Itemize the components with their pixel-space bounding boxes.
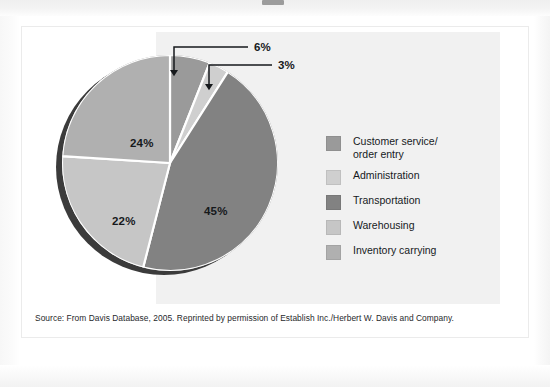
slice-label-inventory-carrying: 24% — [130, 137, 154, 149]
legend-item-inventory-carrying: Inventory carrying — [326, 244, 494, 260]
pie-chart: 24% 22% 45% — [56, 53, 284, 285]
legend-item-customer-service: Customer service/ order entry — [326, 135, 494, 160]
legend-item-warehousing: Warehousing — [326, 219, 494, 235]
legend-item-label: Warehousing — [353, 219, 414, 232]
source-note: Source: From Davis Database, 2005. Repri… — [35, 313, 515, 323]
legend-swatch-icon — [326, 195, 341, 210]
pie-disc — [62, 55, 278, 271]
legend-item-label: Customer service/ order entry — [353, 135, 438, 160]
cropped-title-sliver — [262, 0, 284, 5]
legend-item-label: Transportation — [353, 194, 420, 207]
chart-legend: Customer service/ order entry Administra… — [326, 135, 494, 260]
legend-item-label: Inventory carrying — [353, 244, 436, 257]
callout-label-6: 6% — [254, 41, 271, 53]
legend-swatch-icon — [326, 170, 341, 185]
legend-item-administration: Administration — [326, 169, 494, 185]
figure-card: 24% 22% 45% 6% 3% Customer service/ orde… — [21, 26, 529, 338]
page-edge-left — [0, 16, 20, 387]
legend-swatch-icon — [326, 245, 341, 260]
slice-label-warehousing: 22% — [112, 215, 136, 227]
legend-swatch-icon — [326, 220, 341, 235]
pie-slice — [62, 55, 170, 163]
legend-swatch-icon — [326, 136, 341, 151]
page-edge-right — [534, 16, 550, 387]
pie-slices — [62, 55, 278, 271]
legend-item-transportation: Transportation — [326, 194, 494, 210]
page-edge-bottom — [0, 365, 550, 387]
scan-top-band — [0, 0, 550, 16]
callout-label-3: 3% — [278, 59, 295, 71]
slice-label-transportation: 45% — [204, 205, 228, 217]
legend-item-label: Administration — [353, 169, 420, 182]
